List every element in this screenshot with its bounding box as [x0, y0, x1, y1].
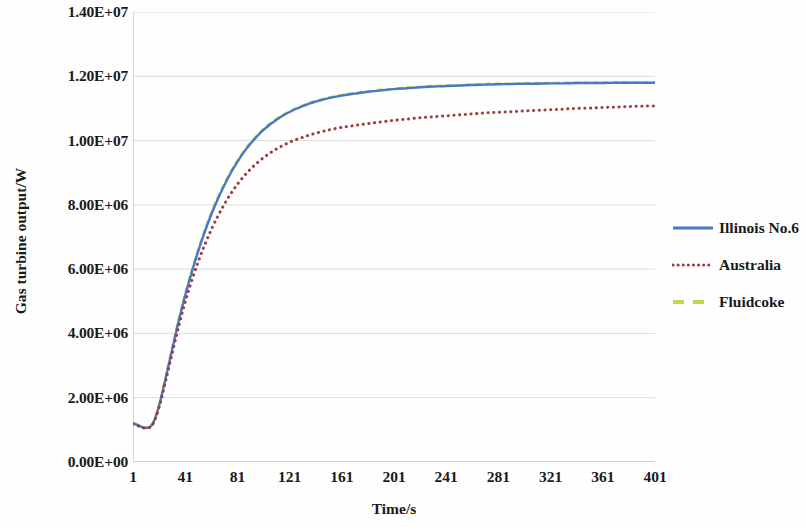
legend-label: Australia: [719, 257, 781, 273]
x-axis-tick-label: 161: [330, 469, 353, 485]
y-axis-title: Gas turbine output/W: [12, 126, 30, 356]
series-line-fluidcoke: [133, 82, 655, 427]
x-axis-tick-label: 241: [435, 469, 458, 485]
legend-swatch-icon: [672, 222, 714, 234]
plot-canvas: [133, 12, 655, 462]
legend-item[interactable]: Australia: [672, 246, 806, 283]
x-axis-title: Time/s: [133, 500, 655, 518]
series-line-australia: [133, 106, 655, 428]
x-axis-tick-label: 81: [230, 469, 246, 485]
gas-turbine-output-line-chart: 0.00E+002.00E+064.00E+066.00E+068.00E+06…: [0, 0, 806, 527]
x-axis-tick-label: 201: [382, 469, 405, 485]
y-axis-tick-label: 8.00E+06: [20, 197, 128, 213]
legend-item[interactable]: Illinois No.6: [672, 209, 806, 246]
y-axis-tick-label: 0.00E+00: [20, 454, 128, 470]
plot-area: [133, 12, 655, 462]
data-series: [133, 82, 655, 428]
legend-swatch-icon: [672, 259, 714, 271]
x-axis-tick-label: 321: [539, 469, 562, 485]
y-axis-tick-label: 4.00E+06: [20, 325, 128, 341]
legend-swatch-icon: [672, 296, 714, 308]
x-axis-tick-label: 121: [278, 469, 301, 485]
legend-label: Illinois No.6: [719, 220, 799, 236]
x-axis-tick-label: 361: [591, 469, 614, 485]
legend-item[interactable]: Fluidcoke: [672, 283, 806, 320]
y-axis-tick-label: 1.40E+07: [20, 4, 128, 20]
x-axis-tick-labels: 14181121161201241281321361401: [0, 469, 806, 491]
y-axis-tick-label: 2.00E+06: [20, 390, 128, 406]
y-axis-tick-label: 1.00E+07: [20, 133, 128, 149]
series-line-illinois-no-6: [133, 83, 655, 428]
axis-lines: [133, 12, 655, 462]
chart-legend: Illinois No.6AustraliaFluidcoke: [672, 209, 806, 320]
legend-label: Fluidcoke: [719, 294, 784, 310]
x-axis-tick-label: 281: [487, 469, 510, 485]
x-axis-tick-label: 41: [177, 469, 193, 485]
y-axis-tick-label: 6.00E+06: [20, 261, 128, 277]
x-axis-tick-label: 1: [129, 469, 137, 485]
gridlines: [133, 12, 655, 462]
y-axis-tick-label: 1.20E+07: [20, 68, 128, 84]
y-axis-tick-labels: 0.00E+002.00E+064.00E+066.00E+068.00E+06…: [18, 0, 128, 527]
x-axis-tick-label: 401: [643, 469, 666, 485]
